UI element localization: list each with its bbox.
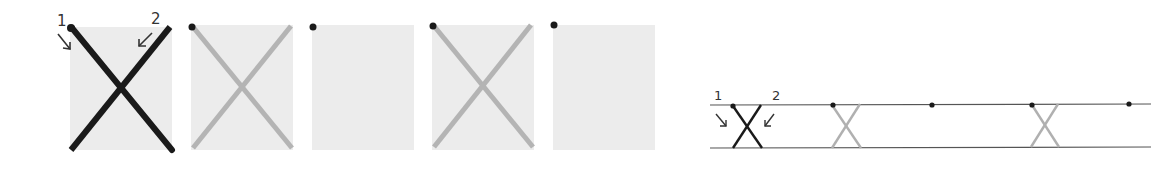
strip-dot-icon: [1126, 101, 1131, 106]
stroke-2-label: 2: [151, 12, 161, 27]
strip-arrow-2-icon: [765, 114, 774, 126]
arrow-1-icon: [58, 34, 70, 49]
dark-cross-icon: [67, 24, 172, 150]
strip-dot-icon: [1029, 102, 1034, 107]
strip-bottom-line: [710, 147, 1151, 148]
strip-stroke-2-label: 2: [772, 89, 780, 102]
strip-stroke-1-label: 1: [714, 89, 722, 102]
start-dot-icon: [551, 22, 558, 29]
strip-dot-icon: [730, 103, 735, 108]
arrow-2-icon: [139, 33, 152, 46]
start-dot-icon: [430, 23, 437, 30]
strip-dot-icon: [830, 102, 835, 107]
start-dot-icon: [189, 24, 196, 31]
stroke-1-label: 1: [57, 14, 67, 29]
strip-dot-icon: [929, 102, 934, 107]
diagram-canvas: [0, 0, 1151, 169]
strip-light-cross-icon: [832, 104, 861, 148]
strip-arrow-1-icon: [716, 114, 726, 126]
start-dot-icon: [310, 24, 317, 31]
light-cross-icon: [193, 26, 292, 148]
strip-light-cross-icon: [1031, 104, 1059, 147]
light-cross-icon: [434, 25, 533, 147]
strip-dark-cross-icon: [733, 105, 762, 148]
